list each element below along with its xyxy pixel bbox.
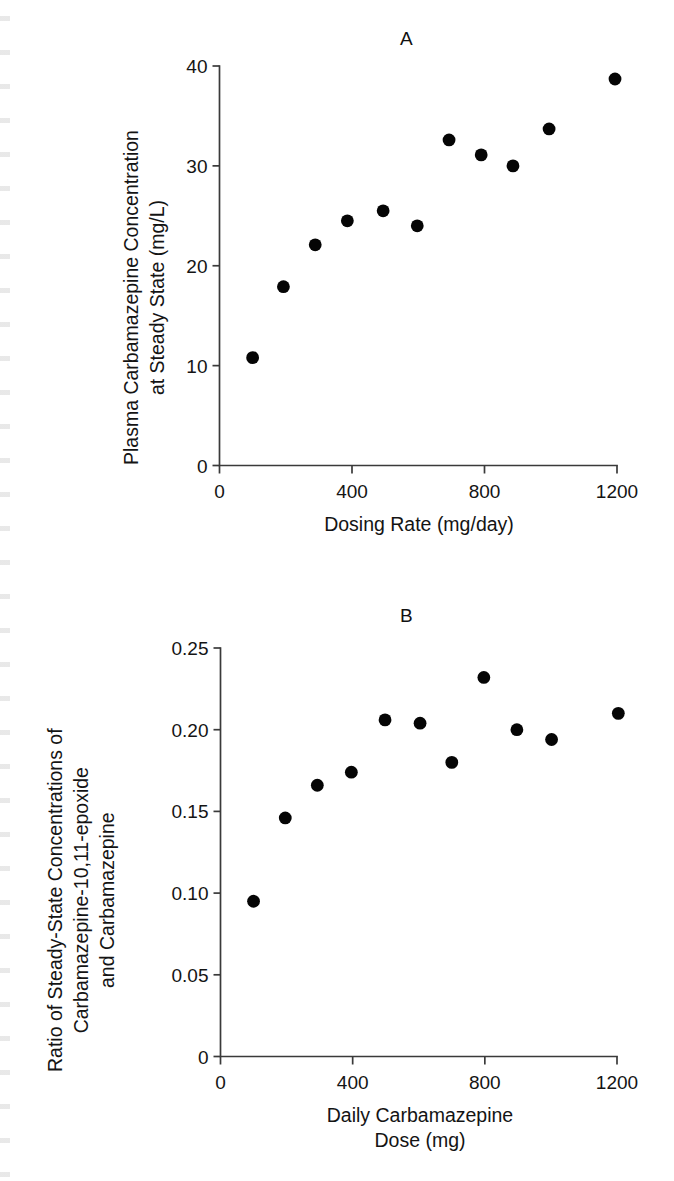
svg-text:30: 30 <box>186 156 207 177</box>
panel-a: A Plasma Carbamazepine Concentration at … <box>0 0 674 560</box>
svg-text:0.05: 0.05 <box>172 965 209 986</box>
panel-a-x-axis-label: Dosing Rate (mg/day) <box>219 512 619 537</box>
svg-text:0.25: 0.25 <box>172 638 209 659</box>
panel-a-y-ticks: 010203040 <box>186 56 219 477</box>
panel-a-x-ticks: 04008001200 <box>214 466 638 502</box>
panel-a-axes <box>220 66 618 466</box>
panel-a-plot: 010203040 04008001200 <box>0 0 674 560</box>
svg-text:1200: 1200 <box>596 481 638 502</box>
svg-text:40: 40 <box>186 56 207 77</box>
panel-b-plot: 00.050.100.150.200.25 04008001200 <box>0 560 674 1181</box>
panel-a-data-points <box>246 73 621 364</box>
figure-root: A Plasma Carbamazepine Concentration at … <box>0 0 674 1181</box>
svg-text:0: 0 <box>198 1047 209 1068</box>
svg-text:800: 800 <box>469 1072 501 1093</box>
svg-text:400: 400 <box>336 481 368 502</box>
svg-text:0.10: 0.10 <box>172 883 209 904</box>
svg-text:0.15: 0.15 <box>172 801 209 822</box>
svg-text:0: 0 <box>215 1072 226 1093</box>
panel-b: B Ratio of Steady-State Concentrations o… <box>0 560 674 1181</box>
panel-b-axes <box>221 648 618 1057</box>
svg-text:10: 10 <box>186 356 207 377</box>
svg-text:1200: 1200 <box>596 1072 638 1093</box>
panel-b-data-points <box>247 671 625 908</box>
svg-text:0: 0 <box>197 456 208 477</box>
svg-text:400: 400 <box>337 1072 369 1093</box>
svg-text:800: 800 <box>469 481 501 502</box>
panel-b-x-axis-label-line-2: Dose (mg) <box>220 1128 620 1153</box>
panel-b-x-ticks: 04008001200 <box>215 1057 638 1093</box>
svg-text:0.20: 0.20 <box>172 720 209 741</box>
panel-a-x-axis-label-line-1: Dosing Rate (mg/day) <box>324 513 514 535</box>
panel-b-x-axis-label: Daily Carbamazepine Dose (mg) <box>220 1103 620 1153</box>
panel-b-y-ticks: 00.050.100.150.200.25 <box>172 638 221 1068</box>
svg-text:0: 0 <box>214 481 225 502</box>
svg-text:20: 20 <box>186 256 207 277</box>
panel-b-x-axis-label-line-1: Daily Carbamazepine <box>220 1103 620 1128</box>
